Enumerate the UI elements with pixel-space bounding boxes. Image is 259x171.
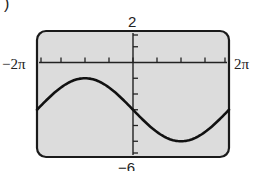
x-min-label: −2π	[2, 57, 26, 72]
x-max-label: 2π	[234, 57, 249, 72]
y-max-label: 2	[128, 14, 136, 29]
y-min-label: −6	[118, 160, 135, 171]
